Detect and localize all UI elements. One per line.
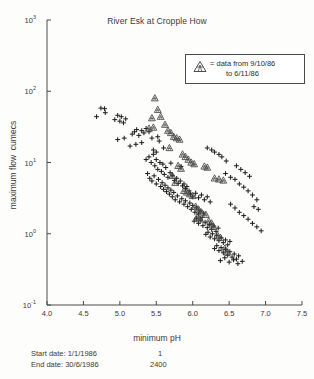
footer-start-date: Start date: 1/1/1986 bbox=[31, 349, 97, 358]
footer-end-number: 2400 bbox=[150, 360, 167, 369]
y-tick-label: 103 bbox=[8, 14, 36, 25]
end-date-value: 30/6/1986 bbox=[65, 360, 98, 369]
footer-start-number: 1 bbox=[158, 349, 162, 358]
start-date-label: Start date: bbox=[31, 349, 66, 358]
footer-end-date: End date: 30/6/1986 bbox=[31, 360, 99, 369]
x-tick-label: 7.0 bbox=[251, 309, 281, 318]
x-tick-label: 6.5 bbox=[214, 309, 244, 318]
x-tick-label: 5.5 bbox=[141, 309, 171, 318]
x-tick-label: 4.5 bbox=[68, 309, 98, 318]
start-date-value: 1/1/1986 bbox=[68, 349, 97, 358]
x-tick-label: 4.0 bbox=[32, 309, 62, 318]
end-date-label: End date: bbox=[31, 360, 63, 369]
legend-triangle-icon bbox=[193, 60, 207, 73]
chart-figure: River Esk at Cropple How maximum flow cu… bbox=[0, 0, 314, 379]
y-tick-label: 10-1 bbox=[8, 299, 36, 310]
y-tick-label: 100 bbox=[8, 228, 36, 239]
y-tick-label: 102 bbox=[8, 85, 36, 96]
legend-line-2: to 6/11/86 bbox=[226, 69, 259, 78]
x-tick-label: 7.5 bbox=[287, 309, 314, 318]
y-tick-label: 101 bbox=[8, 157, 36, 168]
series-plus bbox=[94, 106, 263, 266]
legend-line-1: = data from 9/10/86 bbox=[210, 59, 275, 68]
x-tick-label: 6.0 bbox=[178, 309, 208, 318]
x-tick-label: 5.0 bbox=[105, 309, 135, 318]
legend-box: = data from 9/10/86 to 6/11/86 bbox=[185, 54, 305, 84]
